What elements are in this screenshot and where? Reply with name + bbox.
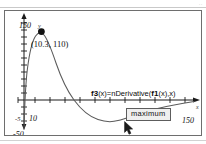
y-axis-top-label: 150 bbox=[19, 21, 31, 30]
x-axis-right-label: 150 bbox=[182, 116, 194, 125]
window-bottom-divider bbox=[0, 140, 206, 141]
x-axis-tick-label-10: 10 bbox=[29, 114, 37, 123]
y-axis-bottom-label: -50 bbox=[13, 130, 24, 136]
y-axis-name-label: y bbox=[38, 22, 41, 29]
formula-function-name: nDerivative bbox=[111, 89, 149, 98]
formula-close-paren: ) bbox=[173, 89, 176, 98]
maximum-point-coordinate-label: (10.3, 110) bbox=[31, 39, 68, 49]
mouse-cursor-icon bbox=[124, 121, 134, 135]
y-axis bbox=[21, 13, 27, 130]
maximum-tooltip[interactable]: maximum bbox=[126, 108, 171, 121]
window-top-right-marks: ·· bbox=[199, 1, 203, 7]
maximum-point-marker[interactable] bbox=[38, 28, 45, 35]
window-top-divider bbox=[0, 7, 206, 8]
calculator-graph-screen: ·· bbox=[0, 0, 206, 144]
x-axis-left-label: -5 bbox=[15, 115, 20, 122]
function-expression-label[interactable]: f3(x)=nDerivative(f1(x),x) bbox=[91, 89, 175, 98]
graph-plot-area[interactable]: 150 y (10.3, 110) f3(x)=nDerivative(f1(x… bbox=[4, 10, 202, 136]
x-axis-name-label: x bbox=[196, 104, 199, 110]
formula-lhs-arg: (x)= bbox=[98, 89, 111, 98]
formula-inner-arg: (x),x bbox=[158, 89, 173, 98]
